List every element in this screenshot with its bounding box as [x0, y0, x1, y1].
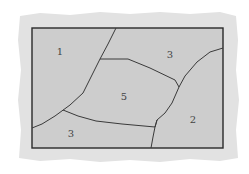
region-5-label: 5 — [121, 91, 127, 102]
region-1-label: 1 — [57, 46, 63, 57]
region-3-bottom-label: 3 — [68, 128, 74, 139]
map-diagram: 13523 — [0, 0, 249, 174]
region-3-top-label: 3 — [167, 49, 173, 60]
region-2-label: 2 — [190, 114, 196, 125]
